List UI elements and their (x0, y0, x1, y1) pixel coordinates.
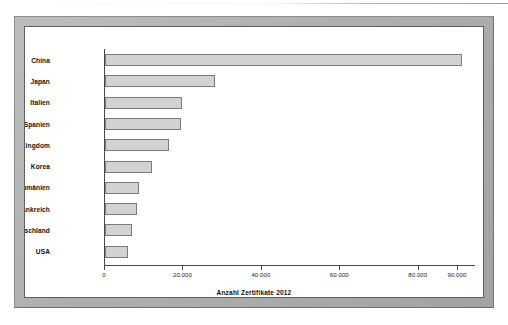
category-label: United Kingdom (25, 142, 50, 149)
x-tick-mark (339, 266, 340, 270)
x-tick-label: 40.000 (251, 272, 270, 278)
bar-united-kingdom (105, 139, 169, 151)
x-tick-mark (418, 266, 419, 270)
x-tick-label: 20.000 (173, 272, 192, 278)
scan-artifact-line (0, 3, 508, 4)
category-label: Japan (30, 78, 50, 85)
bar-fill (105, 182, 139, 194)
image-frame-inner-bevel: 020.00040.00060.00080.00090.000 ChinaJap… (24, 26, 484, 298)
category-label: China (31, 57, 50, 64)
x-tick-mark (182, 266, 183, 270)
bar-usa (105, 246, 128, 258)
bar-china (105, 54, 462, 66)
bar-fill (105, 161, 152, 173)
x-tick-mark (457, 266, 458, 270)
image-frame-outer: 020.00040.00060.00080.00090.000 ChinaJap… (14, 16, 494, 308)
x-tick-mark (104, 266, 105, 270)
bar-fill (105, 97, 182, 109)
bar-rumänien (105, 182, 139, 194)
x-tick-label: 80.000 (408, 272, 427, 278)
category-label: USA (36, 248, 50, 255)
bar-fill (105, 246, 128, 258)
bar-korea (105, 161, 152, 173)
bar-spanien (105, 118, 181, 130)
x-tick-label: 60.000 (330, 272, 349, 278)
category-label: Spanien (25, 121, 50, 128)
bar-fill (105, 203, 137, 215)
bar-fill (105, 139, 169, 151)
bar-fill (105, 118, 181, 130)
bar-japan (105, 75, 215, 87)
bar-fill (105, 224, 132, 236)
x-axis-title: Anzahl Zertifikate 2012 (25, 289, 483, 296)
x-tick-label: 0 (102, 272, 105, 278)
bar-fill (105, 75, 215, 87)
category-label: Rumänien (25, 184, 50, 191)
bar-fill (105, 54, 462, 66)
bar-italien (105, 97, 182, 109)
category-label: Korea (31, 163, 50, 170)
bar-frankreich (105, 203, 137, 215)
category-label: Italien (30, 99, 50, 106)
x-axis-line (104, 265, 475, 266)
bar-deutschland (105, 224, 132, 236)
category-label: Deutschland (25, 227, 50, 234)
category-label: Frankreich (25, 206, 50, 213)
x-tick-mark (261, 266, 262, 270)
x-tick-label: 90.000 (447, 272, 466, 278)
bar-chart: 020.00040.00060.00080.00090.000 ChinaJap… (25, 27, 483, 297)
